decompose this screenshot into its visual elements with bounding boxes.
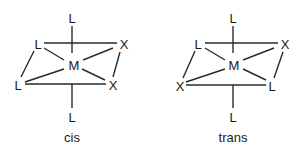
bond-right-edge [274, 52, 283, 78]
atom-bottom: L [229, 110, 236, 125]
bond-m-back-left [205, 48, 225, 60]
atom-back-right: X [281, 37, 290, 52]
atom-front-right: X [109, 78, 118, 93]
atom-back-left: L [34, 37, 41, 52]
bond-m-back-right [243, 48, 274, 60]
atom-center: M [69, 58, 80, 73]
bond-m-back-left [44, 48, 64, 60]
atom-front-right: L [268, 79, 275, 94]
atom-back-left: L [194, 37, 201, 52]
caption-trans: trans [219, 130, 248, 145]
bond-right-edge [113, 52, 120, 77]
bond-left-edge [183, 51, 195, 78]
trans-structure: L L X M X L L trans [176, 11, 290, 145]
bond-m-front-left [25, 69, 64, 82]
atom-back-right: X [120, 37, 129, 52]
atom-top: L [229, 11, 236, 26]
atom-bottom: L [68, 110, 75, 125]
atom-front-left: L [14, 78, 21, 93]
bond-left-edge [21, 51, 34, 77]
atom-front-left: X [176, 79, 185, 94]
cis-structure: L L X M L X L cis [14, 11, 128, 145]
bond-m-front-right [82, 69, 105, 80]
atom-center: M [229, 58, 240, 73]
caption-cis: cis [64, 130, 80, 145]
bond-m-front-right [243, 69, 266, 80]
atom-top: L [68, 11, 75, 26]
bond-m-back-right [83, 48, 113, 60]
isomer-diagram: L L X M L X L cis L L X M X L L trans [0, 0, 300, 148]
bond-m-front-left [186, 69, 225, 82]
